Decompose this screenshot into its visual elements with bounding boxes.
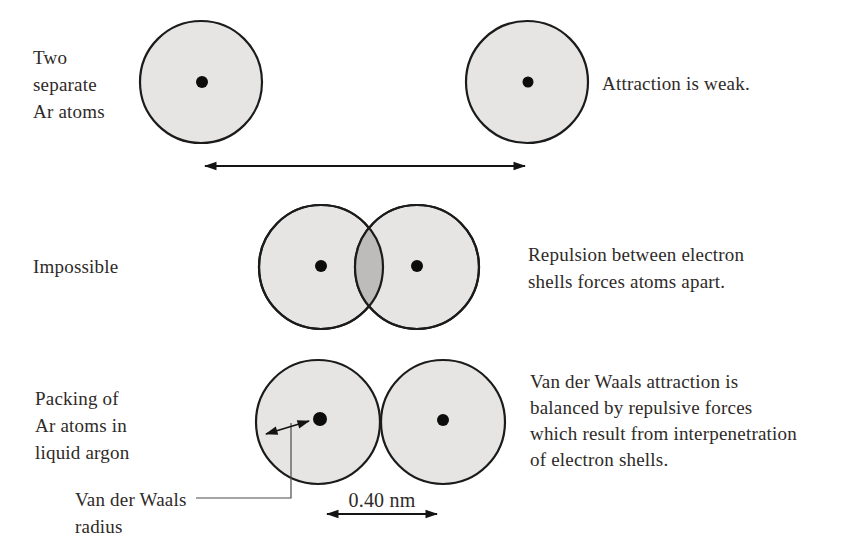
row3-label-line1: Packing of	[35, 385, 129, 412]
row1-caption: Attraction is weak.	[602, 70, 750, 97]
row1-label-line2: separate	[33, 71, 105, 98]
row2-caption: Repulsion between electron shells forces…	[528, 241, 744, 295]
row2-caption-line2: shells forces atoms apart.	[528, 268, 744, 295]
radius-label-line1: Van der Waals	[75, 486, 187, 513]
nucleus-dot-row3-right	[437, 414, 449, 426]
row3-caption-line1: Van der Waals attraction is	[530, 369, 797, 395]
row3-caption: Van der Waals attraction is balanced by …	[530, 369, 797, 473]
row3-label-line2: Ar atoms in	[35, 412, 129, 439]
radius-label: Van der Waals radius	[75, 486, 187, 540]
figure-van-der-waals: Two separate Ar atoms Attraction is weak…	[0, 0, 845, 559]
nucleus-dot-row2-left	[315, 260, 327, 272]
row1-label-line3: Ar atoms	[33, 98, 105, 125]
row2-label: Impossible	[33, 253, 118, 280]
nucleus-dot-row1-right	[523, 77, 534, 88]
distance-label: 0.40 nm	[322, 487, 442, 514]
row2-caption-line1: Repulsion between electron	[528, 241, 744, 268]
nucleus-dot-row3-left	[313, 412, 327, 426]
row3-caption-line4: of electron shells.	[530, 447, 797, 473]
row3-caption-line3: which result from interpenetration	[530, 421, 797, 447]
radius-label-line2: radius	[75, 513, 187, 540]
nucleus-dot-row2-right	[411, 260, 423, 272]
row1-label: Two separate Ar atoms	[33, 44, 105, 125]
row1-label-line1: Two	[33, 44, 105, 71]
row3-caption-line2: balanced by repulsive forces	[530, 395, 797, 421]
row3-label-line3: liquid argon	[35, 439, 129, 466]
row3-label: Packing of Ar atoms in liquid argon	[35, 385, 129, 466]
nucleus-dot-row1-left	[196, 76, 208, 88]
